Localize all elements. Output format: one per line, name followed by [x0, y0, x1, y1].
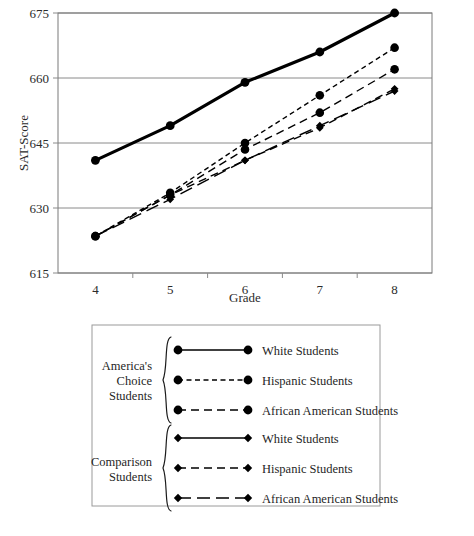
data-point-diamond: [174, 464, 182, 472]
data-point-circle: [316, 108, 325, 117]
legend-entries: America'sChoiceStudentsWhite StudentsHis…: [91, 337, 398, 511]
legend-group-label: Choice: [117, 374, 153, 388]
legend-entry-label: Hispanic Students: [262, 374, 353, 388]
y-tick-label: 660: [30, 71, 50, 86]
data-point-diamond: [244, 464, 252, 472]
data-point-circle: [390, 65, 399, 74]
data-point-diamond: [174, 434, 182, 442]
data-series-layer: [91, 9, 399, 241]
legend-brace: [163, 425, 171, 511]
data-point-circle: [174, 376, 183, 385]
y-axis-title: SAT-Score: [16, 115, 31, 171]
data-point-diamond: [241, 156, 249, 164]
y-tick-label: 630: [30, 201, 50, 216]
legend-entry-label: White Students: [262, 344, 339, 358]
data-point-circle: [244, 346, 253, 355]
x-tick-label: 8: [391, 282, 398, 297]
legend-brace: [163, 337, 171, 423]
data-point-circle: [316, 91, 325, 100]
legend-entry-label: White Students: [262, 432, 339, 446]
legend-entry-label: African American Students: [262, 492, 398, 506]
data-point-circle: [390, 43, 399, 52]
chart-figure: 615630645660675 45678 SAT-Score Grade Am…: [0, 0, 474, 536]
data-point-circle: [174, 406, 183, 415]
legend-entry-label: African American Students: [262, 404, 398, 418]
data-point-circle: [174, 346, 183, 355]
x-tick-label: 5: [167, 282, 174, 297]
legend-group-label: Students: [109, 470, 152, 484]
chart-legend: America'sChoiceStudentsWhite StudentsHis…: [0, 310, 474, 536]
line-chart-plot: 615630645660675 45678 SAT-Score Grade: [0, 0, 474, 310]
data-point-diamond: [244, 434, 252, 442]
legend-group-label: America's: [102, 359, 152, 373]
y-tick-label: 675: [30, 6, 50, 21]
x-axis-title: Grade: [229, 290, 261, 305]
legend-entry-label: Hispanic Students: [262, 462, 353, 476]
data-point-circle: [244, 376, 253, 385]
x-tick-label: 4: [92, 282, 99, 297]
data-point-diamond: [174, 494, 182, 502]
x-tick-label: 7: [317, 282, 324, 297]
y-tick-label: 645: [30, 136, 50, 151]
legend-group-label: Comparison: [91, 455, 153, 469]
data-point-circle: [244, 406, 253, 415]
data-point-circle: [241, 145, 250, 154]
data-point-diamond: [244, 494, 252, 502]
y-axis-ticks: 615630645660675: [30, 6, 59, 281]
legend-group-label: Students: [109, 389, 152, 403]
y-tick-label: 615: [30, 266, 50, 281]
